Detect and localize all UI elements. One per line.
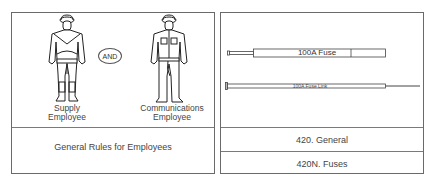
supply-employee-figure xyxy=(42,14,92,106)
worker-figure-icon xyxy=(144,14,194,106)
fuses-panel: 100A Fuse 100A Fuse Link 420. General 42… xyxy=(220,12,424,174)
general-rules-title: General Rules for Employees xyxy=(12,127,214,174)
and-connector: AND xyxy=(98,48,122,64)
caption-line: Employee xyxy=(32,113,102,122)
fuse-drawing: 100A Fuse xyxy=(227,48,387,58)
lineman-figure-icon xyxy=(42,14,92,106)
communications-employee-caption: Communications Employee xyxy=(134,104,210,122)
caption-line: Employee xyxy=(134,113,210,122)
section-row-fuses: 420N. Fuses xyxy=(221,151,423,175)
communications-employee-figure xyxy=(144,14,194,106)
supply-employee-caption: Supply Employee xyxy=(32,104,102,122)
fuse-link-drawing: 100A Fuse Link xyxy=(225,81,421,91)
fuse-link-label: 100A Fuse Link xyxy=(265,81,355,91)
general-rules-panel: Supply Employee AND Communications Emplo… xyxy=(11,12,215,174)
fuse-label: 100A Fuse xyxy=(287,48,347,58)
section-row-general: 420. General xyxy=(221,127,423,152)
